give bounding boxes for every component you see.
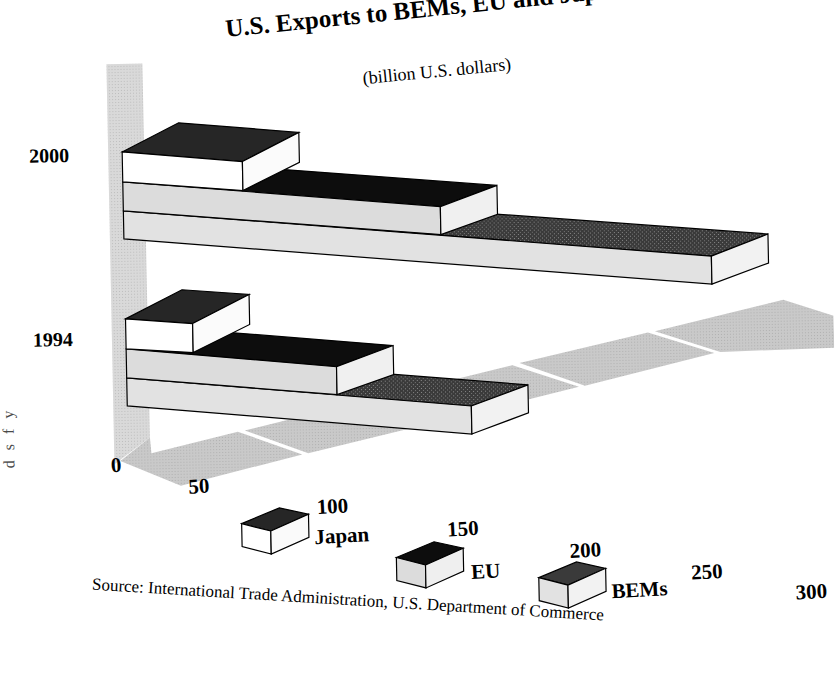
- legend-label-eu: EU: [470, 558, 501, 585]
- axis-tick-100: 100: [316, 493, 349, 520]
- chart-figure: d s f y U.S. Exports to BEMs, EU and Jap…: [0, 0, 839, 691]
- legend-label-japan: Japan: [314, 522, 370, 550]
- legend-key-eu[interactable]: [396, 541, 464, 588]
- axis-tick-150: 150: [447, 516, 480, 543]
- axis-tick-0: 0: [110, 453, 122, 479]
- axis-tick-300: 300: [795, 579, 828, 606]
- bar-group-1994: [125, 283, 529, 441]
- axis-tick-250: 250: [690, 559, 723, 586]
- legend-key-japan[interactable]: [241, 507, 309, 554]
- axis-tick-200: 200: [569, 537, 602, 564]
- bar-group-2000: [122, 111, 769, 296]
- legend-label-bems: BEMs: [611, 576, 668, 604]
- axis-tick-50: 50: [188, 474, 210, 500]
